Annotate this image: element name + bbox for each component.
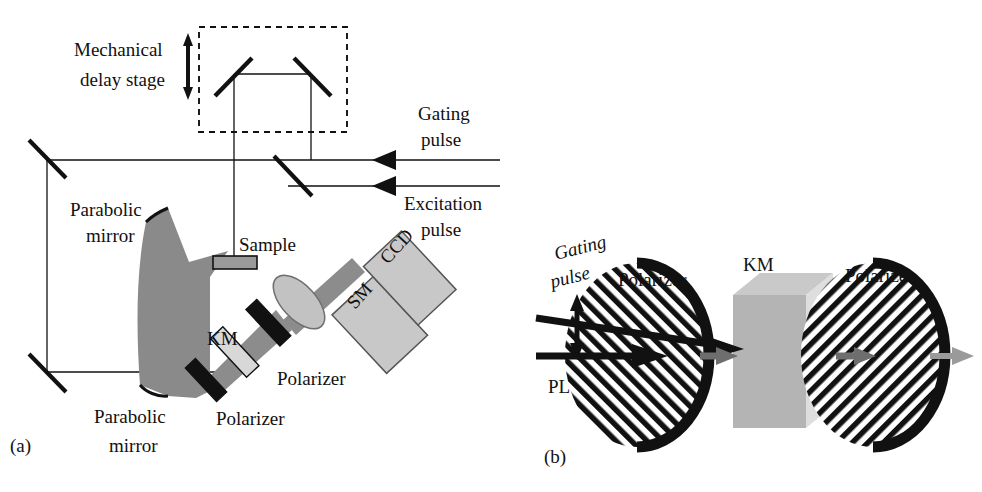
km-label-panel-b: KM (743, 254, 774, 275)
parabolic-mirror-top-label-line2: mirror (86, 225, 135, 246)
parabolic-mirror-body (138, 208, 228, 398)
polarizer-lower-label: Polarizer (216, 408, 285, 429)
panel-b: Gating pulse Polarizer KM Polarizer PL (… (536, 231, 974, 468)
gating-pulse-label-line2: pulse (421, 129, 461, 150)
gating-pulse-label-b-line1: Gating (552, 231, 608, 264)
sample-label: Sample (239, 234, 296, 255)
polarizer-first-label: Polarizer (618, 269, 687, 290)
gating-pulse-label-line1: Gating (418, 103, 470, 124)
km-front-face (733, 295, 806, 428)
km-label-panel-a: KM (207, 328, 238, 349)
gating-pulse-label-b-line2: pulse (546, 262, 592, 293)
parabolic-mirror-bottom-label-line1: Parabolic (94, 406, 166, 427)
polarizer-upper-label: Polarizer (277, 368, 346, 389)
excitation-turning-mirror (274, 156, 312, 196)
gating-beam-arrowhead (372, 150, 396, 170)
polarizer-second-label: Polarizer (845, 265, 914, 286)
delay-stage-beam-path (234, 74, 311, 160)
parabolic-mirror-top-label-line1: Parabolic (70, 199, 142, 220)
panel-b-letter: (b) (544, 446, 566, 468)
excitation-pulse-label-line2: pulse (421, 219, 461, 240)
excitation-pulse-label-line1: Excitation (404, 193, 483, 214)
excitation-beam-arrowhead (372, 176, 396, 196)
figure-root: CCD SM Mechanical delay stage Gating pul… (0, 0, 982, 492)
delay-stage-dashed-box (199, 27, 347, 132)
pl-label: PL (548, 376, 570, 397)
sample-slab (213, 256, 257, 269)
panel-a: CCD SM Mechanical delay stage Gating pul… (10, 27, 500, 457)
panel-a-letter: (a) (10, 435, 31, 457)
mechanical-delay-label-line1: Mechanical (74, 39, 163, 60)
mechanical-delay-label-line2: delay stage (80, 69, 165, 90)
delay-mirror-right (294, 58, 331, 96)
parabolic-mirror-bottom-label-line2: mirror (109, 435, 158, 456)
delay-stage-arrow-icon (183, 33, 193, 100)
optical-setup-diagram: CCD SM Mechanical delay stage Gating pul… (0, 0, 982, 492)
